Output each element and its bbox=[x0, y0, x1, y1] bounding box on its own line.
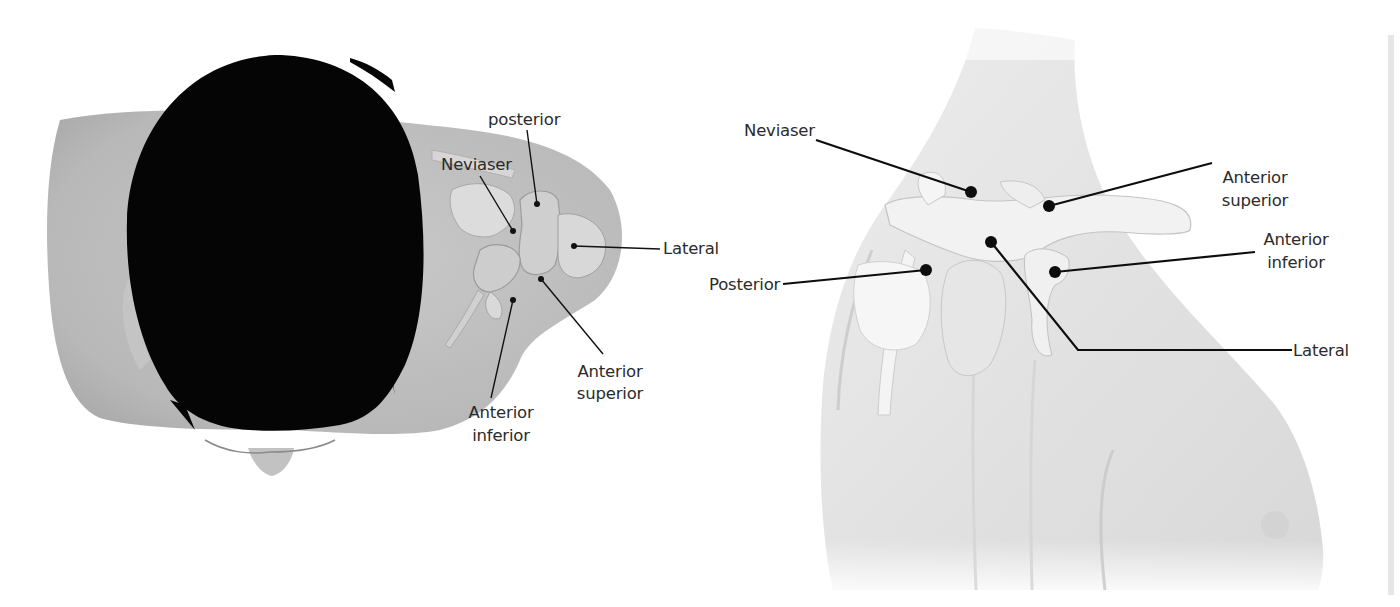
portal-dot-posterior bbox=[920, 264, 932, 276]
label-anterior-inferior-line2: inferior bbox=[472, 426, 530, 445]
neck-fade bbox=[960, 20, 1090, 60]
bottom-fade bbox=[815, 540, 1330, 595]
portal-dot-neviaser bbox=[510, 228, 516, 234]
left-figure: posterior Neviaser Lateral Anterior supe… bbox=[47, 55, 719, 476]
portal-dot-posterior bbox=[534, 201, 540, 207]
arthroscopy-portals-diagram: posterior Neviaser Lateral Anterior supe… bbox=[0, 0, 1400, 607]
label-neviaser: Neviaser bbox=[441, 155, 512, 174]
label-posterior: posterior bbox=[488, 110, 561, 129]
portal-dot-lateral bbox=[571, 243, 577, 249]
label-anterior-superior-line2: superior bbox=[577, 384, 644, 403]
label-anterior-inferior-line2: inferior bbox=[1267, 253, 1325, 272]
label-lateral: Lateral bbox=[1293, 341, 1349, 360]
right-figure: Neviaser Posterior Anterior superior Ant… bbox=[709, 20, 1349, 595]
portal-dot-anterior-superior bbox=[1043, 200, 1055, 212]
label-anterior-inferior-line1: Anterior bbox=[468, 403, 533, 422]
label-anterior-superior-line1: Anterior bbox=[577, 362, 642, 381]
label-anterior-superior-line1: Anterior bbox=[1222, 168, 1287, 187]
page-edge bbox=[1388, 35, 1394, 595]
hair-shape bbox=[127, 55, 424, 431]
nipple-shade bbox=[1261, 511, 1289, 539]
portal-dot-anterior-superior bbox=[538, 276, 544, 282]
label-anterior-inferior-line1: Anterior bbox=[1263, 230, 1328, 249]
portal-dot-anterior-inferior bbox=[510, 297, 516, 303]
label-anterior-superior-line2: superior bbox=[1222, 191, 1289, 210]
label-lateral: Lateral bbox=[663, 239, 719, 258]
label-neviaser: Neviaser bbox=[744, 121, 815, 140]
portal-dot-anterior-inferior bbox=[1049, 266, 1061, 278]
portal-dot-lateral bbox=[985, 236, 997, 248]
label-posterior: Posterior bbox=[709, 275, 781, 294]
portal-dot-neviaser bbox=[965, 186, 977, 198]
